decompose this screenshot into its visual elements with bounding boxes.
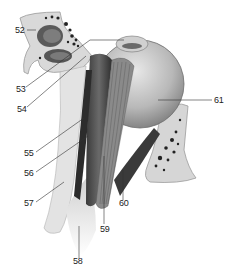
label-59: 59 — [100, 224, 109, 234]
label-54: 54 — [17, 104, 26, 114]
orbit-illustration — [0, 0, 238, 274]
label-60: 60 — [119, 198, 128, 208]
label-58: 58 — [73, 256, 82, 266]
label-55: 55 — [24, 148, 33, 158]
label-52: 52 — [15, 25, 24, 35]
label-61: 61 — [214, 95, 223, 105]
label-53: 53 — [16, 84, 25, 94]
label-56: 56 — [24, 168, 33, 178]
label-57: 57 — [24, 198, 33, 208]
